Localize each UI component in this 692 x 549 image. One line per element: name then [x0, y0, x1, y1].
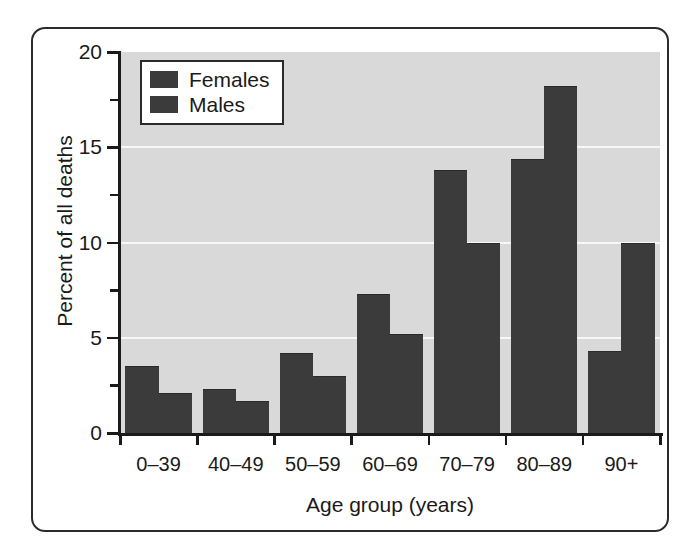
x-tick-mark	[659, 433, 662, 445]
x-tick-label: 70–79	[439, 453, 495, 476]
legend-item-males: Males	[150, 92, 270, 117]
bar-group	[357, 52, 423, 433]
bar-females-0_39	[125, 366, 158, 433]
x-tick-label: 40–49	[208, 453, 264, 476]
x-tick-label: 0–39	[136, 453, 181, 476]
bar-males-70_79	[467, 243, 500, 434]
figure-frame: Females Males 05101520 0–3940–4950–5960–…	[31, 27, 669, 532]
y-tick-mark	[107, 432, 118, 435]
x-tick-mark	[119, 433, 122, 445]
y-tick-mark	[107, 146, 118, 149]
x-tick-mark	[196, 433, 199, 445]
x-axis-title: Age group (years)	[120, 493, 660, 517]
x-tick-label: 60–69	[362, 453, 418, 476]
y-tick-mark-minor	[110, 384, 118, 387]
bar-group	[434, 52, 500, 433]
x-tick-mark	[273, 433, 276, 445]
legend-swatch-males	[150, 96, 178, 113]
bar-females-90+	[588, 351, 621, 433]
bar-group	[280, 52, 346, 433]
legend-item-females: Females	[150, 67, 270, 92]
chart-legend: Females Males	[140, 60, 284, 125]
bar-males-60_69	[390, 334, 423, 433]
y-tick-label: 0	[90, 421, 102, 445]
y-tick-mark-minor	[110, 289, 118, 292]
y-tick-mark-minor	[110, 194, 118, 197]
y-axis-line	[118, 51, 121, 435]
bar-females-60_69	[357, 294, 390, 433]
y-tick-mark	[107, 51, 118, 54]
bar-females-80_89	[511, 159, 544, 433]
bar-females-70_79	[434, 170, 467, 433]
bar-females-50_59	[280, 353, 313, 433]
bar-males-0_39	[159, 393, 192, 433]
legend-label-males: Males	[189, 94, 245, 115]
bar-females-40_49	[203, 389, 236, 433]
plot-wrap: Females Males	[120, 52, 660, 433]
legend-swatch-females	[150, 71, 178, 88]
x-tick-mark	[505, 433, 508, 445]
x-tick-mark	[582, 433, 585, 445]
y-tick-mark	[107, 337, 118, 340]
bar-males-40_49	[236, 401, 269, 433]
bar-males-80_89	[544, 86, 577, 433]
y-axis-title: Percent of all deaths	[53, 66, 77, 396]
bar-males-50_59	[313, 376, 346, 433]
y-tick-label: 5	[90, 326, 102, 350]
bar-group	[588, 52, 654, 433]
y-tick-mark-minor	[110, 99, 118, 102]
y-tick-label: 10	[79, 231, 102, 255]
y-tick-label: 20	[79, 40, 102, 64]
x-tick-mark	[428, 433, 431, 445]
y-tick-mark	[107, 242, 118, 245]
x-tick-label: 80–89	[516, 453, 572, 476]
x-tick-label: 50–59	[285, 453, 341, 476]
bar-group	[511, 52, 577, 433]
legend-label-females: Females	[189, 69, 270, 90]
y-tick-label: 15	[79, 135, 102, 159]
x-tick-mark	[350, 433, 353, 445]
bar-males-90+	[621, 243, 654, 434]
x-tick-label: 90+	[604, 453, 638, 476]
